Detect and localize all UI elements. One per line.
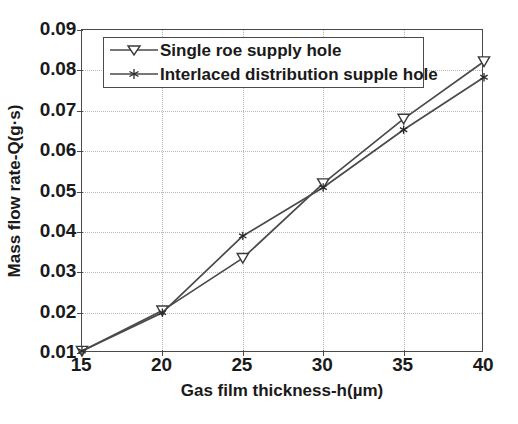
y-tick-label: 0.09 (0, 18, 76, 40)
y-tick-label: 0.08 (0, 58, 76, 80)
legend-item-series-2: Interlaced distribution supple hole (108, 62, 438, 86)
x-tick-label: 25 (231, 354, 252, 376)
series-line (82, 77, 484, 351)
legend-label-series-2: Interlaced distribution supple hole (160, 66, 438, 83)
legend-item-series-1: Single roe supply hole (108, 38, 341, 62)
chart-figure: Mass flow rate-Q(g·s) 0.010.020.030.040.… (0, 0, 518, 424)
x-tick-label: 30 (312, 354, 333, 376)
x-tick-label: 40 (473, 354, 494, 376)
y-tick-label: 0.06 (0, 139, 76, 161)
y-tick-label: 0.03 (0, 260, 76, 282)
x-axis-tick-labels: 152025303540 (81, 354, 483, 380)
data-point-marker (237, 254, 248, 264)
x-tick-label: 20 (151, 354, 172, 376)
legend-label-series-1: Single roe supply hole (160, 42, 341, 59)
x-tick-label: 15 (71, 354, 92, 376)
y-tick-label: 0.01 (0, 341, 76, 363)
x-axis-title: Gas film thickness-h(µm) (81, 381, 483, 401)
series-1 (76, 57, 489, 356)
y-tick-label: 0.05 (0, 180, 76, 202)
series-line (82, 61, 484, 350)
triangle-down-marker-icon (108, 39, 160, 61)
data-point-marker (400, 126, 407, 134)
chart-legend: Single roe supply hole Interlaced distri… (103, 37, 424, 88)
star-marker-icon (108, 63, 160, 85)
x-tick-label: 35 (392, 354, 413, 376)
y-tick-label: 0.02 (0, 301, 76, 323)
y-tick-label: 0.04 (0, 220, 76, 242)
series-2 (78, 73, 487, 355)
y-tick-label: 0.07 (0, 99, 76, 121)
